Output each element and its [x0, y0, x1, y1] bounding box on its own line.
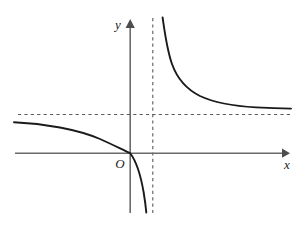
hyperbola-graph: y x O [0, 0, 302, 225]
figure-container: y x O [0, 0, 302, 225]
y-axis-label: y [113, 17, 121, 32]
x-axis-label: x [283, 157, 290, 172]
figure-background [0, 0, 302, 225]
origin-label: O [115, 156, 125, 171]
